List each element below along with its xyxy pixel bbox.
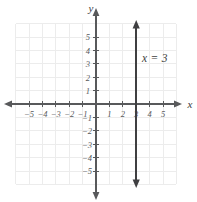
x-tick-label: 2 — [121, 109, 126, 119]
x-tick-label: −4 — [37, 109, 48, 119]
x-tick-label: −2 — [64, 109, 75, 119]
x-axis-left-arrow — [4, 101, 12, 108]
line-top-arrow — [133, 20, 140, 29]
x-tick-labels-negative: −5 −4 −3 −2 −1 — [24, 109, 88, 119]
y-tick-label: −3 — [82, 140, 92, 150]
y-axis-up-arrow — [93, 8, 100, 16]
x-axis-label: x — [187, 98, 193, 110]
x-tick-label: 4 — [147, 109, 152, 119]
y-axis-label: y — [88, 2, 94, 14]
y-tick-label: 5 — [86, 32, 90, 42]
y-tick-label: −5 — [82, 166, 92, 176]
y-tick-label: 3 — [85, 59, 90, 69]
y-tick-label: −1 — [82, 113, 92, 123]
x-tick-label: 5 — [161, 109, 165, 119]
x-axis-right-arrow — [174, 101, 182, 108]
y-tick-label: 1 — [86, 86, 90, 96]
y-tick-labels-negative: −1 −2 −3 −4 −5 — [82, 113, 93, 177]
y-axis-down-arrow — [93, 192, 100, 200]
y-tick-labels-positive: 5 4 3 2 1 — [85, 32, 91, 96]
y-tick-label: −4 — [82, 153, 93, 163]
line-bottom-arrow — [133, 180, 140, 189]
x-tick-label: −3 — [51, 109, 61, 119]
graph-figure: −5 −4 −3 −2 −1 1 2 3 4 5 5 4 3 2 1 −1 −2… — [0, 0, 197, 202]
x-tick-label: 1 — [107, 109, 111, 119]
y-tick-label: −2 — [82, 126, 93, 136]
coordinate-plane-svg: −5 −4 −3 −2 −1 1 2 3 4 5 5 4 3 2 1 −1 −2… — [0, 0, 197, 202]
x-tick-label: −5 — [24, 109, 34, 119]
equation-label: x = 3 — [141, 52, 168, 64]
